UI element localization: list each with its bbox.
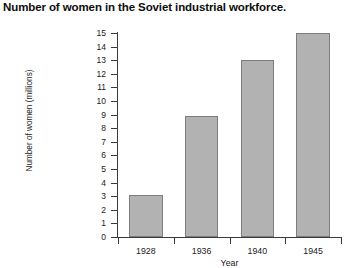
bar [129,195,162,237]
y-axis-tick-label: 9 [66,111,106,119]
y-axis-tick-label: 10 [66,97,106,105]
y-axis-tick-label: 11 [66,83,106,91]
y-axis-tick-label: 8 [66,124,106,132]
x-axis-tick-label: 1936 [174,246,230,256]
x-axis-tick [230,238,231,244]
y-axis-tick [111,101,117,102]
x-axis-title: Year [118,258,341,268]
y-axis-tick-label: 4 [66,179,106,187]
y-axis-title: Number of women (millions) [25,41,34,201]
y-axis-tick [111,183,117,184]
y-axis-tick-label: 6 [66,151,106,159]
y-axis-tick [111,237,117,238]
y-axis-tick [111,128,117,129]
y-axis-tick [111,142,117,143]
y-axis-tick-label: 1 [66,219,106,227]
bar [185,116,218,237]
y-axis-tick [111,223,117,224]
bar [296,33,329,237]
y-axis-tick-label: 12 [66,70,106,78]
y-axis-tick-label: 2 [66,206,106,214]
y-axis-tick [111,196,117,197]
chart-title: Number of women in the Soviet industrial… [3,1,349,13]
x-axis-tick [341,238,342,244]
y-axis-tick-label: 14 [66,43,106,51]
x-axis-tick [118,238,119,244]
y-axis-tick-label: 15 [66,29,106,37]
y-axis-tick [111,210,117,211]
y-axis-tick-label: 13 [66,56,106,64]
y-axis-tick-label: 7 [66,138,106,146]
y-axis-tick [111,87,117,88]
bar [241,60,274,237]
y-axis-tick [111,169,117,170]
x-axis-tick [285,238,286,244]
y-axis-tick [111,47,117,48]
x-axis-tick-label: 1945 [285,246,341,256]
x-axis-tick-label: 1940 [229,246,285,256]
y-axis-tick [111,115,117,116]
y-axis-tick [111,74,117,75]
bar-chart-figure: Number of women (millions) 0123456789101… [0,18,354,265]
y-axis-tick [111,155,117,156]
x-axis-tick [174,238,175,244]
y-axis-tick [111,60,117,61]
y-axis-tick-label: 0 [66,233,106,241]
x-axis-tick-label: 1928 [118,246,174,256]
y-axis-tick [111,33,117,34]
plot-area [118,33,341,237]
y-axis-tick-label: 3 [66,192,106,200]
y-axis-tick-label: 5 [66,165,106,173]
